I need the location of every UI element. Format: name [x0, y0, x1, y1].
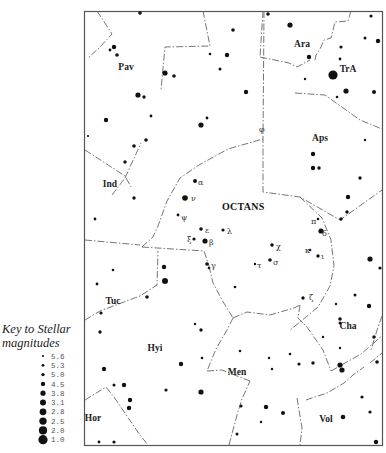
greek-letter-label: α: [198, 178, 204, 187]
star-dot: [301, 296, 304, 299]
star-dot: [231, 28, 235, 32]
magnitude-key: 5.65.35.04.53.83.12.82.52.01.0: [38, 353, 65, 445]
star-dot: [179, 362, 183, 366]
boundary-line: [209, 266, 233, 318]
greek-letter-label: π: [311, 217, 316, 226]
greek-letter-label: χ: [276, 242, 281, 251]
key-magnitude-dot: [41, 373, 44, 376]
star-dot: [112, 269, 115, 272]
star-dot: [372, 90, 376, 94]
star-dot: [297, 362, 300, 365]
greek-letter-label: ι: [321, 252, 324, 261]
star-chart: PavAraTrAApsIndTucHyiChaMenHorVol ανψελξ…: [0, 0, 386, 453]
star-dot: [96, 283, 99, 286]
key-magnitude-dot: [41, 382, 45, 386]
star-dot: [270, 243, 274, 247]
greek-letter-label: ξ: [187, 235, 192, 244]
constellation-label-tuc: Tuc: [106, 296, 121, 306]
greek-letter-label: γ: [211, 261, 216, 270]
star-dot: [236, 433, 239, 436]
constellation-label-hor: Hor: [85, 413, 102, 423]
star-dot: [378, 266, 381, 269]
boundary-line: [233, 305, 300, 318]
star-dot: [367, 304, 371, 308]
star-dot: [123, 160, 126, 163]
key-magnitude-value: 3.1: [51, 399, 65, 407]
star-dot: [364, 37, 367, 40]
constellation-label-vol: Vol: [319, 414, 333, 424]
star-dot: [109, 49, 112, 52]
star-dot: [145, 295, 149, 299]
star-dot: [132, 144, 136, 148]
star-dot: [98, 441, 101, 444]
greek-letter-label: λ: [227, 227, 232, 236]
star-dot: [360, 395, 363, 398]
star-dot: [94, 218, 97, 221]
boundary-line: [306, 367, 364, 400]
boundary-line: [298, 305, 331, 371]
star-dot: [311, 166, 315, 170]
star-dot: [98, 330, 101, 333]
star-dot: [221, 228, 224, 231]
key-magnitude-value: 1.0: [51, 436, 65, 444]
boundary-line: [88, 11, 112, 58]
star-dot: [268, 357, 270, 359]
star-dot: [209, 53, 212, 56]
key-magnitude-dot: [39, 417, 46, 424]
constellation-boundaries: [85, 11, 383, 445]
key-magnitude-dot: [42, 355, 44, 357]
magnitude-key-title: Key to Stellar magnitudes: [2, 322, 92, 350]
star-dot: [260, 421, 262, 423]
star-dot: [172, 74, 176, 78]
constellation-label-aps: Aps: [312, 133, 328, 143]
star-dot: [343, 88, 348, 93]
star-dot: [354, 294, 357, 297]
star-dot: [372, 335, 375, 338]
star-dot: [239, 350, 242, 353]
star-dot: [271, 368, 273, 370]
star-dot: [113, 384, 116, 387]
key-magnitude-dot: [40, 391, 45, 396]
greek-letter-label: τ: [257, 261, 262, 270]
star-dot: [208, 267, 211, 270]
star-dot: [193, 179, 197, 183]
star-dot: [234, 286, 237, 289]
greek-letter-labels: ανψελξβγχστπδκιζφ: [181, 125, 327, 302]
star-dot: [128, 398, 132, 402]
star-dot: [199, 328, 202, 331]
star-dot: [205, 262, 209, 266]
star-dot: [162, 278, 168, 284]
star-dot: [112, 440, 115, 443]
key-title-line2: magnitudes: [2, 336, 92, 350]
star-dot: [132, 196, 135, 199]
star-dot: [162, 70, 167, 75]
key-magnitude-value: 5.3: [51, 362, 65, 370]
star-dot: [198, 389, 203, 394]
star-dot: [268, 258, 272, 262]
star-dot: [198, 122, 203, 127]
greek-letter-label: ε: [205, 226, 209, 235]
star-dot: [142, 95, 145, 98]
star-dot: [311, 152, 315, 156]
star-dot: [374, 440, 378, 444]
boundary-line: [142, 247, 209, 266]
star-dot: [335, 303, 337, 305]
star-dot: [199, 227, 203, 231]
star-dot: [376, 39, 380, 43]
star-dot: [375, 360, 379, 364]
greek-letter-label: ζ: [309, 293, 314, 302]
star-dot: [206, 117, 209, 120]
boundary-line: [295, 93, 382, 129]
star-dot: [192, 237, 195, 240]
star-dot: [289, 353, 292, 356]
star-dot: [368, 410, 371, 413]
key-magnitude-value: 2.8: [51, 408, 65, 416]
star-dot: [341, 415, 346, 420]
star-dot: [339, 367, 344, 372]
constellation-label-men: Men: [228, 367, 247, 377]
key-magnitude-value: 3.8: [51, 390, 65, 398]
star-dot: [346, 195, 350, 199]
star-dot: [322, 336, 324, 338]
boundary-line: [297, 398, 302, 445]
star-dot: [182, 195, 188, 201]
